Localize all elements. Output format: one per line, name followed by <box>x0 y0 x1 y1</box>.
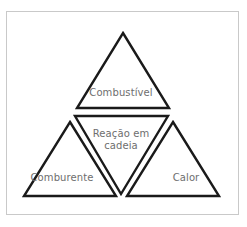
figure-root: Combustível Comburente Calor Reação em c… <box>0 0 247 227</box>
fire-triangle-diagram <box>0 0 247 227</box>
triangle-fuel <box>77 33 169 108</box>
triangle-oxidizer <box>24 122 116 196</box>
triangle-chain-reaction <box>75 116 168 194</box>
